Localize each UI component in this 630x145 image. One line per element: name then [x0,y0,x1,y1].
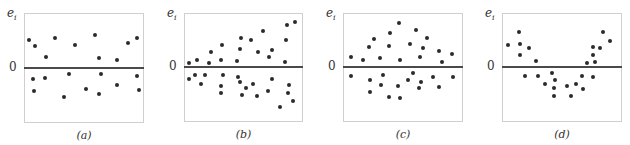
residual-point [396,84,400,88]
zero-tick-label: 0 [9,60,17,74]
residual-point [437,49,441,53]
residual-point [244,86,248,90]
residual-point [506,43,510,47]
residual-point [543,82,547,86]
residual-point [349,74,353,78]
residual-point [137,88,141,92]
y-axis-label: ei [326,6,336,22]
residual-point [381,73,385,77]
residual-point [219,91,223,95]
residual-point [569,94,573,98]
residual-point [135,74,139,78]
zero-tick-label: 0 [328,59,336,73]
residual-point [97,92,101,96]
panel-caption: (a) [54,129,114,142]
residual-point [287,83,291,87]
residual-point [451,75,455,79]
residual-point [387,44,391,48]
panel-caption: (c) [373,128,433,141]
residual-point [93,33,97,37]
residual-point [203,73,207,77]
residual-point [368,90,372,94]
residual-point [238,47,242,51]
residual-point [593,60,597,64]
residual-point [552,86,556,90]
residual-point [261,29,265,33]
residual-point [517,30,521,34]
residual-point [408,42,412,46]
residual-point [553,78,557,82]
residual-point [209,50,213,54]
residual-point [199,82,203,86]
residual-point [591,45,595,49]
residual-point [418,55,422,59]
residual-point [249,38,253,42]
residual-point [240,93,244,97]
residual-point [398,58,402,62]
residual-point [32,89,36,93]
residual-point [601,30,605,34]
zero-tick-label: 0 [169,59,177,73]
residual-point [283,60,287,64]
residual-point [44,55,48,59]
y-axis-label: ei [485,6,495,22]
residual-point [97,56,101,60]
residual-point [278,105,282,109]
residual-point [207,61,211,65]
residual-point [440,60,444,64]
residual-point [398,96,402,100]
residual-point [518,42,522,46]
residual-point [411,71,415,75]
residual-point [67,72,71,76]
residual-point [115,83,119,87]
residual-point [565,84,569,88]
residual-point [266,89,270,93]
residual-point [574,82,578,86]
residual-point [591,75,595,79]
residual-point [372,37,376,41]
residual-point [187,77,191,81]
residual-point [397,21,401,25]
residual-point [115,58,119,62]
residual-point [270,48,274,52]
residual-point [414,28,418,32]
zero-tick-label: 0 [487,59,495,73]
residual-point [195,58,199,62]
residual-point [239,36,243,40]
residual-point [580,74,584,78]
residual-point [84,87,88,91]
residual-point [99,72,103,76]
zero-reference-line [184,66,303,68]
residual-point [534,59,538,63]
residual-point [361,58,365,62]
residual-point [523,74,527,78]
residual-point [550,71,554,75]
residual-point [406,78,410,82]
residual-point [135,36,139,40]
residual-point [219,84,223,88]
residual-point [598,46,602,50]
residual-point [378,56,382,60]
residual-point [235,59,239,63]
y-axis-label: ei [7,6,17,22]
residual-point [417,86,421,90]
residual-point [251,82,255,86]
residual-point [126,41,130,45]
residual-point [187,61,191,65]
residual-point [293,20,297,24]
residual-point [591,53,595,57]
residual-point [387,95,391,99]
panel-caption: (d) [532,128,592,141]
y-axis-label: ei [167,6,177,22]
residual-point [73,43,77,47]
residual-point [608,39,612,43]
residual-point [349,55,353,59]
residual-point [256,50,260,54]
residual-point [43,76,47,80]
residual-point [193,73,197,77]
zero-reference-line [24,67,144,69]
residual-point [285,23,289,27]
residual-point [284,38,288,42]
residual-point [425,36,429,40]
zero-reference-line [502,66,622,68]
